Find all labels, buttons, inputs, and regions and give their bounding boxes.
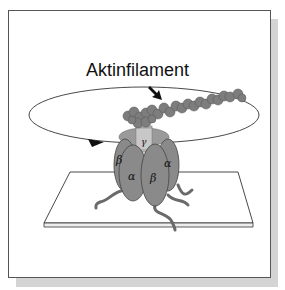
actin-filament-label: Aktinfilament — [86, 60, 189, 81]
label-beta-left: β — [115, 154, 122, 167]
label-alpha-right: α — [164, 157, 172, 170]
label-gamma: γ — [141, 137, 147, 147]
label-beta-front: β — [149, 172, 156, 185]
label-alpha-front: α — [128, 170, 136, 183]
atp-synthase-diagram: β α α β γ — [0, 0, 285, 290]
pointer-arrow-icon — [148, 86, 162, 100]
actin-filament — [123, 89, 246, 128]
